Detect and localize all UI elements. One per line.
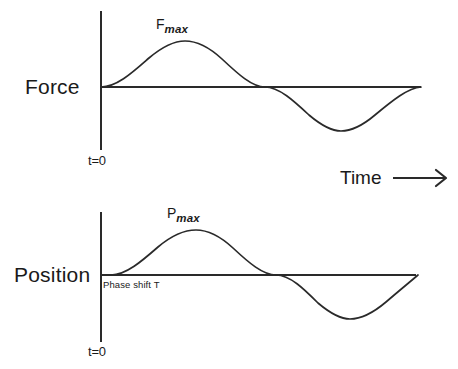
position-peak-subscript: max (176, 212, 200, 224)
force-axis-title: Force (25, 76, 80, 97)
position-peak-symbol: P (167, 205, 176, 221)
position-axis-title: Position (14, 264, 90, 285)
force-origin-label: t=0 (88, 154, 106, 167)
force-peak-symbol: F (156, 16, 165, 32)
phase-shift-annotation: Phase shift T (103, 280, 160, 290)
position-peak-label: Pmax (167, 206, 200, 224)
force-peak-label: Fmax (156, 17, 188, 35)
force-peak-subscript: max (165, 23, 189, 35)
force-panel-graphics (101, 12, 421, 149)
time-arrow-graphics (393, 170, 446, 186)
physics-waveform-diagram: Force t=0 Fmax Time Position t=0 Phase s… (0, 0, 458, 369)
diagram-canvas (0, 0, 458, 369)
time-axis-label: Time (340, 168, 382, 187)
position-panel-graphics (101, 213, 418, 341)
force-sine-curve (101, 41, 421, 131)
position-origin-label: t=0 (88, 345, 106, 358)
